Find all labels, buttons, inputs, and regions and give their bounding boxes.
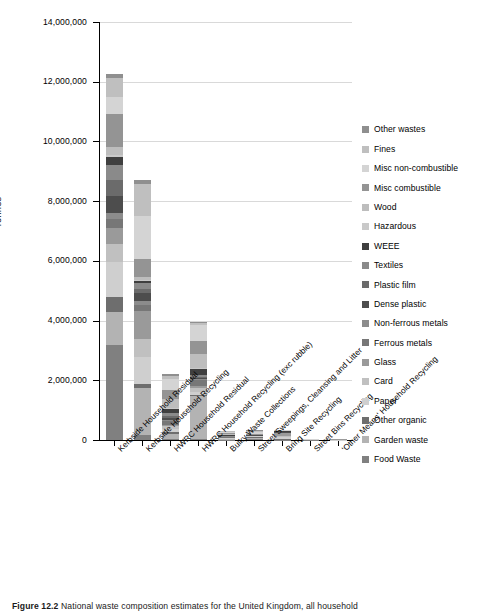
bar-segment[interactable]: [162, 399, 179, 408]
bar-segment[interactable]: [134, 357, 151, 384]
bar-segment[interactable]: [106, 165, 123, 180]
legend-item[interactable]: Food Waste: [362, 450, 499, 469]
bar-segment[interactable]: [162, 379, 179, 390]
bar-segment[interactable]: [162, 390, 179, 400]
legend-label: Ferrous metals: [374, 339, 432, 348]
bar-segment[interactable]: [134, 184, 151, 215]
legend-item[interactable]: Textiles: [362, 256, 499, 275]
legend-label: Textiles: [374, 261, 403, 270]
x-tick-mark: [170, 441, 171, 446]
bar-segment[interactable]: [190, 341, 207, 354]
bar-segment[interactable]: [106, 157, 123, 165]
legend-swatch-icon: [362, 378, 369, 385]
y-tick-label: 2,000,000: [48, 376, 87, 385]
legend-swatch-icon: [362, 184, 369, 191]
legend-item[interactable]: Card: [362, 372, 499, 391]
bar-segment[interactable]: [106, 345, 123, 440]
legend-label: Fines: [374, 145, 395, 154]
legend-label: Hazardous: [374, 222, 416, 231]
legend-swatch-icon: [362, 281, 369, 288]
legend-label: Misc combustible: [374, 184, 441, 193]
legend-item[interactable]: Hazardous: [362, 217, 499, 236]
bar-segment[interactable]: [106, 114, 123, 147]
bar-segment[interactable]: [134, 388, 151, 435]
y-tick-label: 6,000,000: [48, 256, 87, 265]
legend-item[interactable]: Glass: [362, 353, 499, 372]
legend-label: Wood: [374, 203, 397, 212]
bar-stack[interactable]: [218, 22, 235, 440]
bar-segment[interactable]: [106, 297, 123, 313]
caption-label: Figure 12.2: [12, 601, 58, 611]
legend-swatch-icon: [362, 262, 369, 269]
bar-segment[interactable]: [134, 305, 151, 312]
legend-item[interactable]: Paper: [362, 391, 499, 410]
x-tick-mark: [282, 441, 283, 446]
legend-item[interactable]: Plastic film: [362, 275, 499, 294]
bar-segment[interactable]: [106, 196, 123, 213]
bar-segment[interactable]: [134, 293, 151, 301]
figure-container: Tonnes 02,000,0004,000,0006,000,0008,000…: [0, 0, 499, 612]
legend-label: Misc non-combustible: [374, 164, 458, 173]
bar-segment[interactable]: [106, 180, 123, 197]
legend-swatch-icon: [362, 359, 369, 366]
y-tick-label: 10,000,000: [43, 137, 87, 146]
legend-item[interactable]: Non-ferrous metals: [362, 314, 499, 333]
y-tick-label: 0: [82, 436, 87, 445]
bar-stack[interactable]: [190, 22, 207, 440]
bar-segment[interactable]: [134, 311, 151, 338]
bar-segment[interactable]: [106, 244, 123, 263]
bar-segment[interactable]: [134, 216, 151, 259]
bar-stack[interactable]: [274, 22, 291, 440]
legend-item[interactable]: Wood: [362, 198, 499, 217]
legend-item[interactable]: WEEE: [362, 236, 499, 255]
bar-segment[interactable]: [106, 228, 123, 244]
y-tick-label: 12,000,000: [43, 77, 87, 86]
bar-segment[interactable]: [190, 354, 207, 369]
y-axis-line: [99, 22, 100, 441]
bar-stack[interactable]: [134, 22, 151, 440]
bar-stack[interactable]: [330, 22, 347, 440]
legend-label: Paper: [374, 397, 397, 406]
x-tick-mark: [114, 441, 115, 446]
bar-segment[interactable]: [106, 78, 123, 97]
legend-item[interactable]: Other organic: [362, 411, 499, 430]
legend-swatch-icon: [362, 204, 369, 211]
legend-swatch-icon: [362, 165, 369, 172]
bar-segment[interactable]: [106, 262, 123, 296]
bar-segment[interactable]: [106, 97, 123, 114]
y-axis-title: Tonnes: [0, 197, 3, 228]
legend-item[interactable]: Garden waste: [362, 430, 499, 449]
bar-segment[interactable]: [134, 339, 151, 358]
legend: Other wastesFinesMisc non-combustibleMis…: [362, 120, 499, 469]
bar-segment[interactable]: [246, 439, 263, 440]
caption-text: National waste composition estimates for…: [61, 601, 358, 611]
bar-stack[interactable]: [106, 22, 123, 440]
legend-label: Glass: [374, 358, 396, 367]
legend-item[interactable]: Misc combustible: [362, 178, 499, 197]
bar-stack[interactable]: [162, 22, 179, 440]
bar-segment[interactable]: [190, 325, 207, 341]
legend-swatch-icon: [362, 436, 369, 443]
bar-segment[interactable]: [106, 147, 123, 154]
bar-stack[interactable]: [246, 22, 263, 440]
legend-item[interactable]: Other wastes: [362, 120, 499, 139]
bar-segment[interactable]: [106, 312, 123, 345]
x-tick-mark: [338, 441, 339, 446]
x-tick-mark: [310, 441, 311, 446]
y-tick-label: 4,000,000: [48, 316, 87, 325]
legend-item[interactable]: Fines: [362, 139, 499, 158]
legend-swatch-icon: [362, 417, 369, 424]
x-tick-mark: [226, 441, 227, 446]
legend-swatch-icon: [362, 320, 369, 327]
bar-segment[interactable]: [162, 439, 179, 440]
bar-segment[interactable]: [134, 435, 151, 440]
legend-swatch-icon: [362, 126, 369, 133]
bar-segment[interactable]: [106, 219, 123, 229]
legend-item[interactable]: Dense plastic: [362, 295, 499, 314]
legend-item[interactable]: Ferrous metals: [362, 333, 499, 352]
bar-segment[interactable]: [190, 439, 207, 440]
bar-segment[interactable]: [190, 396, 207, 439]
legend-item[interactable]: Misc non-combustible: [362, 159, 499, 178]
bar-segment[interactable]: [134, 259, 151, 278]
bar-stack[interactable]: [302, 22, 319, 440]
